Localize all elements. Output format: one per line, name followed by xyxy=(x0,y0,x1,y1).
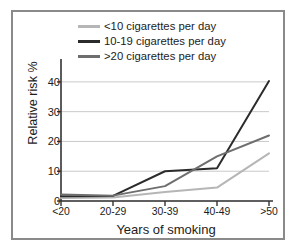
x-tick-label: >50 xyxy=(242,206,296,217)
series-line-0 xyxy=(61,153,269,198)
series-line-2 xyxy=(61,135,269,195)
x-tick-label: 30-39 xyxy=(138,206,192,217)
x-axis-title: Years of smoking xyxy=(60,222,272,237)
y-tick-label: 20 xyxy=(38,135,60,147)
chart-screenshot: <10 cigarettes per day 10-19 cigarettes … xyxy=(0,0,298,252)
y-tick-label: 40 xyxy=(38,76,60,88)
y-tick-label: 30 xyxy=(38,106,60,118)
x-tick-label: 20-29 xyxy=(86,206,140,217)
y-axis-title: Relative risk % xyxy=(26,48,40,158)
x-tick-label: <20 xyxy=(34,206,88,217)
series-line-1 xyxy=(61,81,269,196)
plot-area: 010203040 Relative risk % Years of smoki… xyxy=(0,0,298,252)
y-tick-label: 10 xyxy=(38,165,60,177)
x-tick-label: 40-49 xyxy=(190,206,244,217)
